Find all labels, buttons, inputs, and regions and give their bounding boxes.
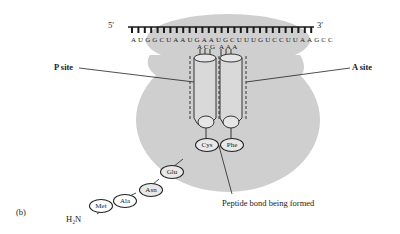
p-site-label: P site [54,62,73,72]
mrna-5-prime-label: 5′ [108,20,114,30]
peptide-bond-label: Peptide bond being formed [222,198,314,208]
amino-acid-glu: Glu [160,165,184,179]
p-site-anticodon: ACG [197,43,217,51]
amino-acid-met: Met [89,199,113,213]
amino-acid-asn: Asn [139,183,163,197]
a-site-label: A site [352,62,372,72]
panel-label: (b) [16,207,26,217]
amino-acid-phe: Phe [220,138,244,152]
amino-acid-ala: Ala [113,194,137,208]
amino-acid-cys: Cys [195,138,219,152]
a-site-anticodon: AAA [219,43,239,51]
ribosome-translation-diagram: 5′ 3′ AUGGCUAAUGAAUGCUUUGUCCUUAAGCC ACG … [0,0,400,234]
mrna-3-prime-label: 3′ [317,20,323,30]
amino-terminus-label: H₂N [66,214,81,224]
